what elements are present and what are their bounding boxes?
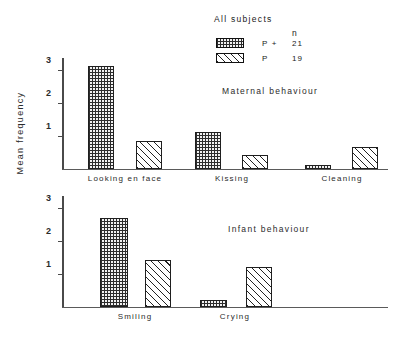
x-axis-labels-maternal: Looking en face Kissing Cleaning xyxy=(62,174,388,186)
x-label-cleaning: Cleaning xyxy=(321,174,362,183)
bar-kissing-p-plus xyxy=(195,132,221,168)
x-label-crying: Crying xyxy=(220,312,250,321)
legend-swatch-dotted-icon xyxy=(216,38,244,48)
bar-smiling-p xyxy=(145,260,171,306)
x-label-smiling: Smiling xyxy=(118,312,153,321)
y-tick-label-1-infant: 1 xyxy=(46,259,51,269)
y-tick-label-1-maternal: 1 xyxy=(46,121,51,131)
bar-smiling-p-plus xyxy=(100,218,128,307)
y-axis-title: Mean frequency xyxy=(15,85,25,181)
y-tick-label-3-maternal: 3 xyxy=(46,55,51,65)
chart-panel-maternal: 1 2 3 xyxy=(62,58,388,170)
panel-caption-infant: Infant behaviour xyxy=(228,224,310,234)
x-axis-line-maternal xyxy=(62,169,388,170)
y-tick-1-infant xyxy=(58,274,63,275)
bar-cleaning-p xyxy=(352,147,378,169)
y-tick-3-infant xyxy=(58,208,63,209)
legend-n-header: n xyxy=(292,28,298,38)
y-axis-line-infant xyxy=(62,196,64,308)
y-tick-label-3-infant: 3 xyxy=(46,193,51,203)
y-axis-line-maternal xyxy=(62,58,64,170)
y-tick-2-infant xyxy=(58,241,63,242)
y-tick-2-maternal xyxy=(58,103,63,104)
y-tick-3-maternal xyxy=(58,70,63,71)
x-axis-line-infant xyxy=(62,307,388,308)
y-tick-label-2-infant: 2 xyxy=(46,226,51,236)
chart-panel-infant: 1 2 3 xyxy=(62,196,388,308)
bar-kissing-p xyxy=(242,155,268,168)
bar-crying-p xyxy=(246,267,272,307)
y-tick-label-2-maternal: 2 xyxy=(46,88,51,98)
bar-looking-en-face-p xyxy=(136,141,162,169)
panel-caption-maternal: Maternal behaviour xyxy=(222,86,318,96)
x-axis-labels-infant: Smiling Crying xyxy=(62,312,388,324)
legend-label-p-plus: P + xyxy=(262,39,278,48)
bar-crying-p-plus xyxy=(200,300,227,307)
bar-looking-en-face-p-plus xyxy=(88,66,114,168)
bar-cleaning-p-plus xyxy=(305,165,331,169)
y-tick-1-maternal xyxy=(58,136,63,137)
legend-n-p-plus: 21 xyxy=(292,39,303,48)
x-label-looking-en-face: Looking en face xyxy=(88,174,163,183)
legend-title: All subjects xyxy=(214,14,273,24)
x-label-kissing: Kissing xyxy=(215,174,249,183)
